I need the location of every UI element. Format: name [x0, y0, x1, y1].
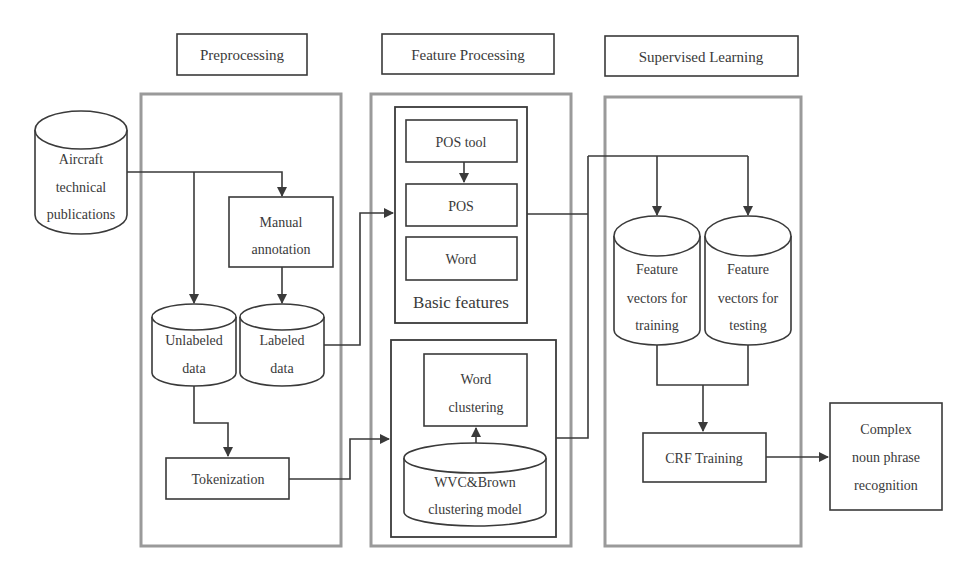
node-manual-annotation: Manual annotation: [229, 197, 333, 267]
node-label: CRF Training: [665, 451, 742, 466]
node-label: training: [635, 318, 679, 333]
node-label: noun phrase: [852, 450, 920, 465]
node-word: Word: [406, 237, 517, 280]
node-label: annotation: [251, 242, 310, 257]
node-pos-tool: POS tool: [406, 120, 517, 162]
node-label: Feature: [727, 262, 769, 277]
node-label: POS tool: [436, 135, 487, 150]
wvc-brown-model-database-icon: WVC&Brown clustering model: [404, 443, 546, 526]
node-label: vectors for: [627, 291, 688, 306]
node-label: Unlabeled: [165, 333, 223, 348]
node-label: recognition: [854, 478, 918, 493]
feature-vectors-testing-database-icon: Feature vectors for testing: [705, 216, 791, 345]
section-header-supervised-learning: Supervised Learning: [605, 36, 798, 76]
node-pos: POS: [406, 184, 517, 226]
node-label: clustering model: [428, 502, 522, 517]
node-label: Tokenization: [192, 472, 265, 487]
aircraft-publications-database-icon: Aircraft technical publications: [35, 111, 127, 234]
section-label: Supervised Learning: [639, 49, 764, 65]
node-label: POS: [448, 199, 474, 214]
node-complex-noun-phrase-recognition: Complex noun phrase recognition: [830, 403, 942, 510]
feature-vectors-training-database-icon: Feature vectors for training: [614, 216, 700, 345]
node-label: Labeled: [259, 333, 304, 348]
node-label: clustering: [448, 400, 503, 415]
node-label: Feature: [636, 262, 678, 277]
pipeline-diagram: Preprocessing Feature Processing Supervi…: [0, 0, 980, 572]
labeled-data-database-icon: Labeled data: [240, 304, 324, 386]
node-label: publications: [47, 207, 115, 222]
node-label: technical: [56, 180, 107, 195]
node-label: Word: [446, 252, 477, 267]
group-label: Basic features: [413, 293, 509, 312]
unlabeled-data-database-icon: Unlabeled data: [152, 304, 236, 386]
node-label: data: [270, 361, 294, 376]
section-header-preprocessing: Preprocessing: [177, 34, 307, 75]
section-label: Preprocessing: [200, 47, 285, 63]
node-label: WVC&Brown: [434, 475, 516, 490]
section-header-feature-processing: Feature Processing: [382, 34, 554, 74]
node-tokenization: Tokenization: [166, 458, 289, 499]
node-crf-training: CRF Training: [643, 433, 766, 482]
node-label: data: [182, 361, 206, 376]
node-label: Word: [461, 372, 492, 387]
section-label: Feature Processing: [411, 47, 525, 63]
node-word-clustering: Word clustering: [424, 354, 527, 426]
node-label: testing: [729, 318, 766, 333]
node-label: vectors for: [718, 291, 779, 306]
node-label: Complex: [860, 422, 911, 437]
node-label: Aircraft: [59, 152, 103, 167]
node-label: Manual: [260, 215, 303, 230]
